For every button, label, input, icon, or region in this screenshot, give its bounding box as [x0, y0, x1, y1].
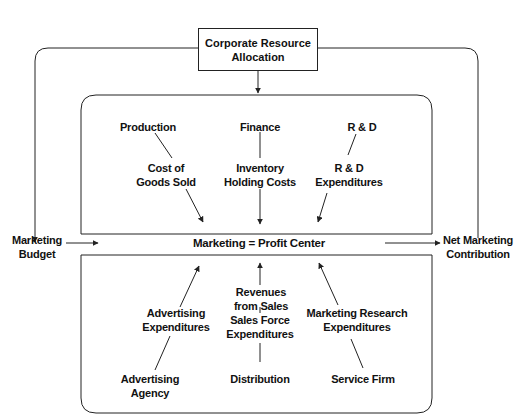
edge-corporate-to-budget	[35, 48, 198, 242]
service-firm-node: Service Firm	[331, 372, 395, 386]
sales-force-expenditures-label: Sales Force Expenditures	[226, 313, 293, 341]
advertising-expenditures-label: Advertising Expenditures	[142, 306, 209, 334]
corporate-line-1: Corporate Resource	[205, 36, 311, 50]
revenues-from-sales-label: Revenues from Sales	[234, 285, 288, 313]
marketing-budget-node: Marketing Budget	[12, 233, 62, 261]
marketing-research-expenditures-label: Marketing Research Expenditures	[307, 306, 408, 334]
distribution-node: Distribution	[230, 372, 289, 386]
advertising-agency-node: Advertising Agency	[121, 372, 179, 400]
marketing-profit-center-node: Marketing = Profit Center	[193, 236, 325, 250]
edge-contribution-to-corporate	[318, 48, 478, 238]
rnd-node: R & D	[348, 120, 377, 134]
production-node: Production	[120, 120, 176, 134]
corporate-line-2: Allocation	[231, 50, 284, 64]
net-marketing-contribution-node: Net Marketing Contribution	[443, 233, 513, 261]
corporate-resource-allocation-node: Corporate Resource Allocation	[198, 28, 318, 71]
rnd-expenditures-label: R & D Expenditures	[315, 161, 382, 189]
cost-of-goods-sold-label: Cost of Goods Sold	[136, 161, 196, 189]
inventory-holding-costs-label: Inventory Holding Costs	[224, 161, 296, 189]
finance-node: Finance	[240, 120, 280, 134]
